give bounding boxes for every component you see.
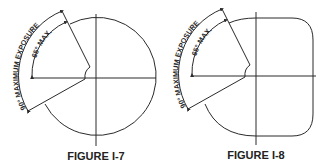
caption-figure-i-8: FIGURE I-8 — [206, 149, 306, 161]
figure-i-7: 90° MAXIMUM EXPOSURE 65° MAX. — [11, 11, 156, 146]
label-90-maximum-exposure: 90° MAXIMUM EXPOSURE — [171, 18, 201, 109]
figure-i-8: 90° MAXIMUM EXPOSURE 65° MAX. — [171, 9, 316, 145]
rounded-square-outline — [205, 18, 313, 136]
circle-outline — [45, 17, 156, 135]
diagram-canvas: 90° MAXIMUM EXPOSURE 65° MAX. 90° MAXIMU… — [0, 0, 321, 166]
caption-figure-i-7: FIGURE I-7 — [46, 150, 146, 162]
label-90-maximum-exposure: 90° MAXIMUM EXPOSURE — [11, 20, 41, 111]
